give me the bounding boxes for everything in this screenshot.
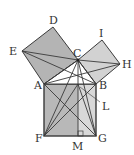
label-l: L [102,100,110,113]
label-f: F [35,132,43,145]
label-m: M [72,140,83,153]
label-g: G [98,132,107,145]
label-c: C [73,47,81,60]
label-d: D [49,14,58,27]
label-e: E [9,45,17,58]
label-i: I [99,27,103,40]
label-a: A [33,79,43,92]
label-b: B [99,79,107,92]
pythagorean-diagram: D E C I H A B L F M G [0,0,134,155]
label-h: H [122,58,132,71]
